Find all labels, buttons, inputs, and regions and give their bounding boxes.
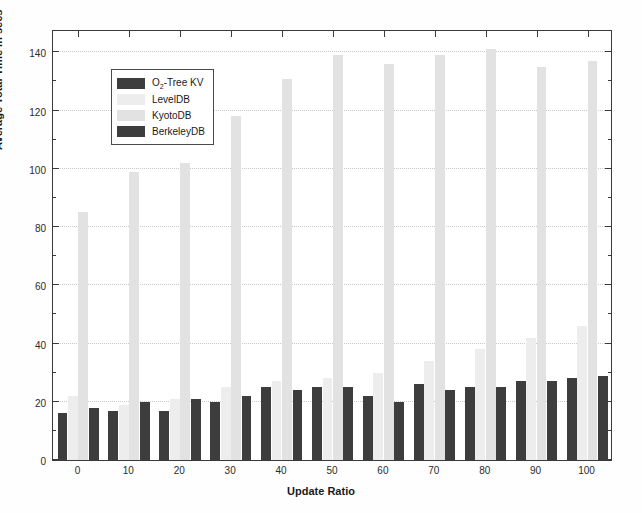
- bar: [89, 408, 99, 460]
- chart-legend: O2-Tree KVLevelDBKyotoDBBerkeleyDB: [111, 69, 214, 145]
- bar: [547, 381, 557, 460]
- x-tick-label: 10: [108, 465, 148, 476]
- bar: [343, 387, 353, 460]
- bar: [58, 413, 68, 460]
- x-tick-label: 100: [567, 465, 607, 476]
- bar: [496, 387, 506, 460]
- y-tick-label: 20: [6, 397, 46, 408]
- bar: [68, 396, 78, 460]
- bar: [598, 376, 608, 460]
- x-tick-label: 90: [516, 465, 556, 476]
- legend-label: LevelDB: [152, 94, 190, 105]
- bar: [108, 411, 118, 461]
- bar: [242, 396, 252, 460]
- legend-item: BerkeleyDB: [117, 123, 205, 139]
- bar: [129, 172, 139, 460]
- x-tick-label: 50: [312, 465, 352, 476]
- bar: [537, 67, 547, 460]
- bar: [323, 378, 333, 460]
- y-tick-label: 60: [6, 281, 46, 292]
- x-tick-label: 20: [159, 465, 199, 476]
- x-tick-label: 40: [261, 465, 301, 476]
- y-tick-label: 40: [6, 339, 46, 350]
- y-tick-label: 0: [6, 456, 46, 467]
- bar: [445, 390, 455, 460]
- bar: [394, 402, 404, 460]
- y-axis-title: Average Total Time in secs: [0, 10, 4, 150]
- bar: [180, 163, 190, 460]
- legend-label: KyotoDB: [152, 110, 191, 121]
- legend-item: LevelDB: [117, 91, 205, 107]
- bar: [577, 326, 587, 460]
- legend-label: O2-Tree KV: [152, 77, 203, 90]
- chart-figure: O2-Tree KVLevelDBKyotoDBBerkeleyDB 02040…: [0, 0, 642, 513]
- bar: [588, 61, 598, 460]
- plot-area: O2-Tree KVLevelDBKyotoDBBerkeleyDB: [52, 30, 612, 461]
- legend-swatch: [117, 126, 145, 137]
- bar: [221, 387, 231, 460]
- y-tick-label: 100: [6, 164, 46, 175]
- bar: [261, 387, 271, 460]
- bar: [170, 399, 180, 460]
- bar: [210, 402, 220, 460]
- bar: [424, 361, 434, 460]
- bar: [78, 212, 88, 460]
- bar: [384, 64, 394, 460]
- bar: [567, 378, 577, 460]
- bar: [475, 349, 485, 460]
- legend-swatch: [117, 110, 145, 121]
- x-axis-title: Update Ratio: [0, 485, 642, 497]
- legend-label: BerkeleyDB: [152, 126, 205, 137]
- bar: [435, 55, 445, 460]
- bar: [140, 402, 150, 460]
- bar: [119, 405, 129, 460]
- bar: [159, 411, 169, 461]
- bar: [486, 49, 496, 460]
- x-tick-label: 30: [210, 465, 250, 476]
- bar: [363, 396, 373, 460]
- y-tick-label: 140: [6, 48, 46, 59]
- x-tick-label: 80: [465, 465, 505, 476]
- y-tick-label: 120: [6, 106, 46, 117]
- legend-item: KyotoDB: [117, 107, 205, 123]
- bar: [191, 399, 201, 460]
- bar: [272, 381, 282, 460]
- legend-swatch: [117, 94, 145, 105]
- legend-item: O2-Tree KV: [117, 75, 205, 91]
- bar: [333, 55, 343, 460]
- bar: [373, 373, 383, 460]
- bar: [526, 338, 536, 460]
- y-tick-label: 80: [6, 223, 46, 234]
- x-tick-label: 70: [414, 465, 454, 476]
- bar: [465, 387, 475, 460]
- bar: [516, 381, 526, 460]
- legend-swatch: [117, 78, 145, 89]
- bar: [414, 384, 424, 460]
- x-tick-label: 0: [57, 465, 97, 476]
- bar: [231, 116, 241, 460]
- bar: [293, 390, 303, 460]
- x-tick-label: 60: [363, 465, 403, 476]
- bar: [312, 387, 322, 460]
- bar: [282, 79, 292, 460]
